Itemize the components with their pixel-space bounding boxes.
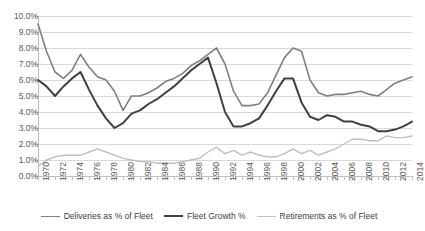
x-axis-tick-label: 1984	[161, 162, 170, 181]
x-axis-tick-label: 1976	[93, 162, 102, 181]
chart-legend: Deliveries as % of Fleet Fleet Growth % …	[0, 206, 418, 226]
x-axis-tick-label: 2014	[416, 162, 425, 181]
x-axis-tick-label: 1994	[246, 162, 255, 181]
x-axis-tick-label: 1998	[280, 162, 289, 181]
legend-label-fleet-growth: Fleet Growth %	[187, 211, 246, 221]
legend-item-deliveries[interactable]: Deliveries as % of Fleet	[41, 211, 153, 221]
x-axis-tick-label: 1978	[110, 162, 119, 181]
legend-label-retirements: Retirements as % of Fleet	[280, 211, 378, 221]
x-axis-tick-label: 1982	[144, 162, 153, 181]
x-axis-tick-label: 2012	[399, 162, 408, 181]
x-axis-tick-label: 1970	[42, 162, 51, 181]
legend-swatch-retirements	[257, 216, 276, 217]
legend-swatch-fleet-growth	[164, 215, 183, 217]
x-axis-tick-label: 1988	[195, 162, 204, 181]
x-axis-tick-label: 2000	[297, 162, 306, 181]
x-axis-tick-label: 1996	[263, 162, 272, 181]
x-axis-tick-label: 1972	[59, 162, 68, 181]
legend-swatch-deliveries	[41, 216, 60, 217]
x-axis-tick-label: 1980	[127, 162, 136, 181]
x-axis-tick-label: 1990	[212, 162, 221, 181]
x-axis-tick-label: 2004	[331, 162, 340, 181]
legend-item-fleet-growth[interactable]: Fleet Growth %	[164, 211, 246, 221]
x-axis-tick-label: 1992	[229, 162, 238, 181]
x-axis-tick-label: 2010	[382, 162, 391, 181]
x-axis-tick-label: 1974	[76, 162, 85, 181]
x-axis-tick-label: 1986	[178, 162, 187, 181]
x-axis-tick-label: 2002	[314, 162, 323, 181]
x-axis-tick-label: 2006	[348, 162, 357, 181]
legend-label-deliveries: Deliveries as % of Fleet	[64, 211, 153, 221]
legend-item-retirements[interactable]: Retirements as % of Fleet	[257, 211, 378, 221]
x-axis-tick-label: 2008	[365, 162, 374, 181]
